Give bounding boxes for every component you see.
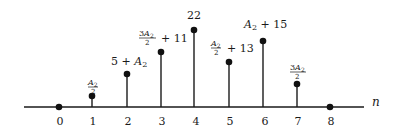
marker-n6 — [260, 38, 267, 45]
svg-text:3A2: 3A2 — [290, 63, 305, 73]
tick-6: 6 — [262, 115, 269, 128]
svg-text:3A2: 3A2 — [139, 29, 154, 39]
tick-3: 3 — [159, 115, 166, 128]
svg-text:2: 2 — [145, 39, 149, 47]
svg-text:5 + A2: 5 + A2 — [111, 55, 147, 69]
stem-plot: n 0 1 2 3 4 5 6 7 8 A2 2 — [0, 0, 395, 133]
marker-n3 — [158, 49, 165, 56]
marker-n4 — [191, 27, 198, 34]
tick-0: 0 — [57, 115, 64, 128]
marker-n7 — [294, 81, 301, 88]
svg-text:22: 22 — [187, 9, 201, 22]
svg-text:+ 11: + 11 — [161, 32, 188, 45]
tick-5: 5 — [227, 115, 234, 128]
annotation-n2: 5 + A2 — [111, 55, 147, 69]
tick-1: 1 — [90, 115, 97, 128]
svg-text:+ 13: + 13 — [227, 42, 254, 55]
svg-text:2: 2 — [214, 49, 218, 57]
marker-n0 — [56, 104, 63, 111]
annotation-n1: A2 2 — [87, 78, 98, 96]
tick-7: 7 — [295, 115, 302, 128]
svg-text:A2: A2 — [210, 39, 221, 49]
tick-labels: 0 1 2 3 4 5 6 7 8 — [57, 115, 335, 128]
annotation-n5: A2 2 + 13 — [210, 39, 254, 57]
annotation-n3: 3A2 2 + 11 — [139, 29, 188, 47]
marker-n5 — [226, 59, 233, 66]
svg-text:2: 2 — [91, 88, 95, 96]
svg-text:A2 + 15: A2 + 15 — [243, 18, 287, 32]
tick-2: 2 — [125, 115, 132, 128]
tick-4: 4 — [193, 115, 200, 128]
annotation-n6: A2 + 15 — [243, 18, 287, 32]
marker-n2 — [124, 71, 131, 78]
tick-8: 8 — [328, 115, 335, 128]
svg-text:2: 2 — [295, 73, 299, 81]
annotation-n4: 22 — [187, 9, 201, 22]
n-axis-label: n — [372, 95, 380, 109]
marker-n8 — [327, 104, 334, 111]
annotation-n7: 3A2 2 — [290, 63, 306, 81]
svg-text:A2: A2 — [87, 78, 98, 88]
